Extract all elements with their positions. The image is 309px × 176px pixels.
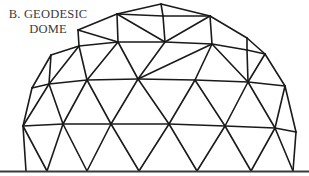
dome-strut (139, 124, 169, 171)
dome-strut (197, 126, 225, 171)
dome-strut (293, 132, 296, 171)
dome-strut (32, 55, 51, 88)
dome-strut (87, 80, 111, 124)
dome-strut (47, 124, 63, 171)
dome-strut (248, 82, 285, 86)
dome-strut (49, 84, 63, 124)
dome-strut (79, 46, 87, 80)
dome-strut (63, 80, 87, 124)
dome-strut (117, 4, 161, 14)
dome-strut (23, 126, 47, 171)
dome-strut (23, 88, 32, 126)
dome-strut (248, 54, 265, 82)
dome-strut (195, 80, 248, 82)
dome-strut (111, 124, 139, 171)
dome-strut (275, 128, 296, 132)
dome-strut (87, 79, 138, 80)
dome-strut (23, 84, 49, 126)
dome-strut (111, 79, 138, 124)
dome-strut (138, 44, 212, 79)
dome-strut (225, 126, 275, 128)
dome-strut (117, 14, 165, 42)
dome-strut (161, 4, 163, 16)
geodesic-dome-drawing (0, 0, 309, 176)
dome-strut (49, 80, 87, 84)
dome-strut (195, 44, 212, 80)
dome-strut (265, 54, 285, 86)
dome-strut (23, 124, 63, 126)
dome-strut (275, 128, 293, 171)
dome-strut (78, 14, 117, 30)
dome-strut (87, 42, 118, 80)
dome-strut (275, 86, 285, 128)
dome-strut (117, 14, 163, 16)
dome-strut (248, 82, 275, 128)
dome-strut (79, 42, 118, 46)
dome-strut (165, 42, 212, 44)
dome-strut (161, 4, 210, 16)
dome-strut (163, 16, 165, 42)
dome-strut (78, 30, 79, 46)
dome-strut (118, 42, 138, 79)
dome-strut (195, 80, 225, 126)
dome-strut (225, 82, 248, 126)
dome-strut (169, 80, 195, 124)
dome-strut (251, 128, 275, 171)
dome-strut (210, 16, 247, 38)
dome-strut (63, 124, 87, 171)
dome-strut (169, 124, 197, 171)
dome-strut (117, 14, 118, 42)
dome-strut (225, 126, 251, 171)
dome-strut (49, 46, 79, 84)
dome-frame (23, 4, 296, 171)
dome-strut (247, 50, 248, 82)
dome-strut (169, 124, 225, 126)
dome-strut (138, 79, 195, 80)
dome-strut (285, 86, 296, 132)
dome-strut (165, 16, 210, 42)
dome-strut (138, 79, 169, 124)
dome-strut (210, 16, 212, 44)
dome-strut (87, 124, 111, 171)
dome-strut (23, 126, 26, 171)
dome-strut (78, 30, 118, 42)
